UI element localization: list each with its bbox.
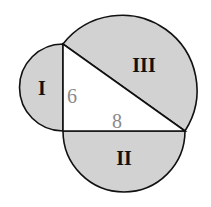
region-label-I: I xyxy=(38,77,46,99)
side-label-8: 8 xyxy=(112,110,122,132)
region-label-III: III xyxy=(132,54,156,76)
side-label-6: 6 xyxy=(67,85,77,107)
region-label-II: II xyxy=(116,147,132,169)
diagram: I II III 6 8 xyxy=(0,0,211,207)
